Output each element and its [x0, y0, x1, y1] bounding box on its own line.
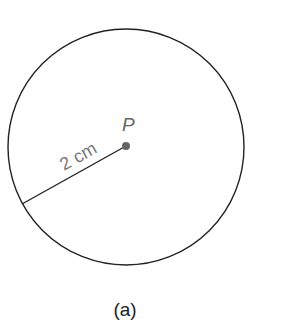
center-label: P — [122, 114, 135, 135]
circle-diagram: P 2 cm — [0, 0, 308, 334]
center-point — [122, 142, 130, 150]
figure-caption: (a) — [0, 299, 250, 321]
radius-label: 2 cm — [56, 138, 100, 174]
